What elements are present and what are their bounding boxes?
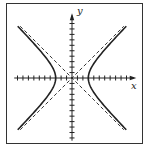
plot-frame [7,4,143,144]
hyperbola-plot [0,0,147,149]
y-axis-label: y [77,6,83,16]
x-axis-label: x [131,81,137,91]
y-axis-arrow-icon [70,13,74,20]
